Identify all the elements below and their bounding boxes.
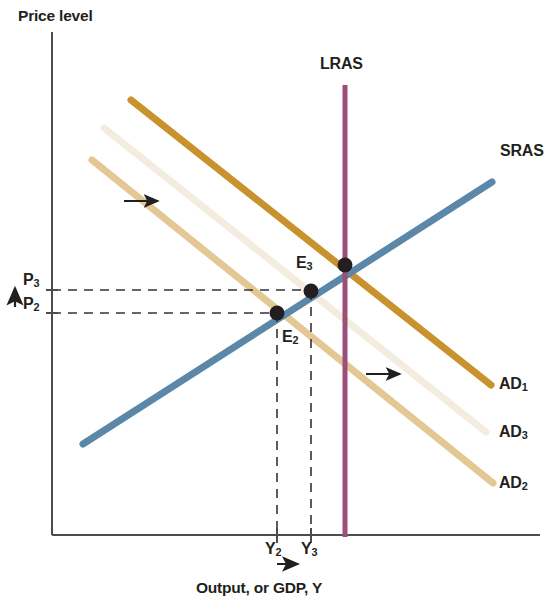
y-axis-title: Price level xyxy=(18,8,93,24)
price-tick-label-p2: P2 xyxy=(23,296,40,312)
curve-label-ad1-text: AD xyxy=(499,375,522,392)
curve-label-ad1-sub: 1 xyxy=(522,381,528,393)
curve-label-ad3-sub: 3 xyxy=(522,429,528,441)
output-tick-label-y2-text: Y xyxy=(265,540,275,557)
curve-label-ad2-text: AD xyxy=(499,474,522,491)
x-axis-title: Output, or GDP, Y xyxy=(196,580,322,596)
point-label-e2-text: E xyxy=(282,328,292,345)
output-tick-label-y2: Y2 xyxy=(265,541,282,557)
equilibrium-point-e3 xyxy=(304,284,319,299)
output-tick-label-y3-text: Y xyxy=(301,540,311,557)
curve-label-ad3: AD3 xyxy=(499,424,528,440)
price-tick-label-p2-sub: 2 xyxy=(33,301,39,313)
curve-ad2 xyxy=(92,160,493,483)
curve-ad3 xyxy=(104,128,486,432)
curve-label-lras: LRAS xyxy=(320,56,363,72)
curve-label-ad2: AD2 xyxy=(499,475,528,491)
point-label-e2: E2 xyxy=(282,329,299,345)
curve-label-ad2-sub: 2 xyxy=(522,480,528,492)
ad-as-diagram: Price level Output, or GDP, Y LRAS SRAS … xyxy=(0,0,558,612)
point-label-e2-sub: 2 xyxy=(292,334,298,346)
equilibrium-point-lras xyxy=(338,258,353,273)
equilibrium-point-e2 xyxy=(270,306,285,321)
curve-label-sras: SRAS xyxy=(500,143,544,159)
price-tick-label-p2-text: P xyxy=(23,295,33,312)
output-tick-label-y3-sub: 3 xyxy=(311,546,317,558)
output-tick-label-y3: Y3 xyxy=(301,541,318,557)
price-tick-label-p3-sub: 3 xyxy=(33,277,39,289)
curve-label-ad1: AD1 xyxy=(499,376,528,392)
point-label-e3-text: E xyxy=(296,254,306,271)
price-tick-label-p3-text: P xyxy=(23,271,33,288)
curve-label-ad3-text: AD xyxy=(499,423,522,440)
diagram-canvas xyxy=(0,0,558,612)
point-label-e3: E3 xyxy=(296,255,313,271)
point-label-e3-sub: 3 xyxy=(306,260,312,272)
output-tick-label-y2-sub: 2 xyxy=(275,546,281,558)
price-tick-label-p3: P3 xyxy=(23,272,40,288)
